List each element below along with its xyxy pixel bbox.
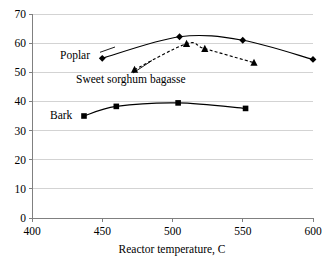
data-point-bark-1 <box>114 104 120 110</box>
x-axis-title: Reactor temperature, C <box>119 243 226 256</box>
data-point-bark-0 <box>81 113 87 119</box>
data-point-bark-3 <box>243 106 249 112</box>
series-label-bark: Bark <box>50 109 73 121</box>
chart-canvas: 010203040506070 400450500550600 Poplar S… <box>0 0 326 261</box>
y-tick-label-70: 70 <box>15 8 27 20</box>
chart-container: 010203040506070 400450500550600 Poplar S… <box>0 0 326 261</box>
y-tick-label-30: 30 <box>15 125 27 137</box>
y-tick-label-0: 0 <box>20 212 26 224</box>
x-tick-label-550: 550 <box>234 225 252 237</box>
x-tick-label-500: 500 <box>164 225 182 237</box>
y-tick-label-20: 20 <box>15 154 27 166</box>
data-point-bark-2 <box>175 100 181 106</box>
x-tick-label-450: 450 <box>94 225 112 237</box>
y-tick-label-60: 60 <box>15 37 27 49</box>
x-tick-label-400: 400 <box>23 225 41 237</box>
y-tick-label-50: 50 <box>15 66 27 78</box>
series-label-bagasse: Sweet sorghum bagasse <box>76 73 186 86</box>
x-tick-label-600: 600 <box>304 225 322 237</box>
y-tick-label-40: 40 <box>15 95 27 107</box>
y-tick-label-10: 10 <box>15 183 27 195</box>
series-label-poplar: Poplar <box>60 49 90 62</box>
